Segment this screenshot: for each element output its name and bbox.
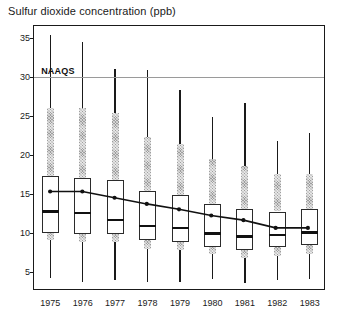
whisker-lower [309,254,310,278]
x-tick-label-1982: 1982 [267,298,287,308]
whisker-lower [179,250,180,282]
median-line [301,231,318,233]
y-tick-mark [30,38,34,39]
x-tick-label-1977: 1977 [105,298,125,308]
naaqs-threshold-line [34,77,324,78]
band-upper [274,174,281,211]
y-tick-label: 30 [20,72,30,82]
median-line [74,212,91,214]
band-upper [79,108,86,178]
whisker-lower [114,242,115,280]
band-lower [79,234,86,242]
median-line [107,219,124,221]
plot-area: 5101520253035 19751976197719781979198019… [34,26,324,289]
whisker-upper [147,70,148,137]
whisker-lower [82,242,83,282]
y-tick-mark [30,233,34,234]
box-iqr [42,176,59,232]
whisker-upper [212,117,213,159]
y-tick-mark [30,272,34,273]
so2-boxplot-chart: Sulfur dioxide concentration (ppb) 51015… [0,0,343,319]
band-upper [47,108,54,177]
whisker-lower [147,249,148,283]
band-upper [209,159,216,204]
band-upper [177,144,184,195]
whisker-lower [277,256,278,280]
whisker-upper [277,141,278,175]
chart-title: Sulfur dioxide concentration (ppb) [8,5,176,17]
band-lower [47,233,54,241]
box-iqr [172,195,189,242]
band-upper [306,174,313,209]
band-lower [144,240,151,249]
box-iqr [269,212,286,247]
x-tick-label-1980: 1980 [202,298,222,308]
band-upper [112,113,119,181]
y-tick-mark [30,116,34,117]
band-upper [144,137,151,191]
box-iqr [74,178,91,234]
whisker-lower [50,240,51,277]
box-iqr [236,209,253,250]
whisker-upper [309,133,310,174]
band-lower [306,245,313,254]
band-lower [209,247,216,255]
median-line [236,235,253,237]
median-line [42,210,59,212]
y-tick-mark [30,194,34,195]
plot-frame: 5101520253035 19751976197719781979198019… [33,25,325,290]
x-tick-label-1979: 1979 [170,298,190,308]
y-tick-label: 20 [20,150,30,160]
whisker-lower [244,258,245,283]
band-lower [177,242,184,251]
box-iqr [139,191,156,240]
y-tick-label: 5 [25,267,30,277]
band-upper [241,166,248,209]
naaqs-label: NAAQS [41,66,75,76]
box-iqr [107,180,124,234]
x-tick-label-1978: 1978 [138,298,158,308]
y-tick-label: 25 [20,111,30,121]
whisker-upper [179,90,180,144]
whisker-upper [114,69,115,113]
whisker-lower [212,254,213,278]
x-tick-label-1976: 1976 [73,298,93,308]
whisker-upper [82,42,83,108]
median-line [139,225,156,227]
x-tick-label-1981: 1981 [235,298,255,308]
box-iqr [301,209,318,245]
y-tick-label: 10 [20,228,30,238]
whisker-upper [244,103,245,166]
x-tick-label-1983: 1983 [300,298,320,308]
median-line [269,234,286,236]
median-line [204,232,221,234]
median-line [172,227,189,229]
band-lower [241,250,248,258]
y-tick-label: 15 [20,189,30,199]
x-tick-label-1975: 1975 [40,298,60,308]
box-iqr [204,204,221,246]
y-tick-label: 35 [20,33,30,43]
y-tick-mark [30,155,34,156]
band-lower [112,234,119,242]
band-lower [274,247,281,256]
